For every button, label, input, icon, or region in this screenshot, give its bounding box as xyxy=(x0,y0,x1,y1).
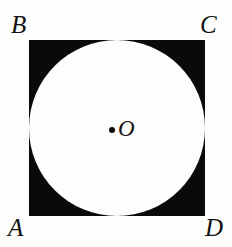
geometry-figure: B C A D O xyxy=(0,0,232,247)
inscribed-circle xyxy=(29,40,205,216)
vertex-label-d: D xyxy=(205,215,223,240)
vertex-label-c: C xyxy=(200,12,217,37)
vertex-label-b: B xyxy=(11,12,26,37)
circle-center-dot xyxy=(109,127,115,133)
vertex-label-a: A xyxy=(8,215,23,240)
center-label-o: O xyxy=(118,117,135,140)
